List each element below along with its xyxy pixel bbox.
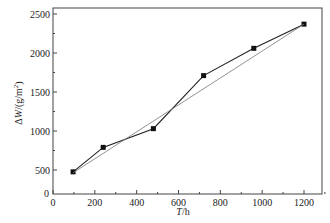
y-tick-label: 2500 [30, 9, 50, 20]
x-tick-label: 200 [87, 197, 102, 208]
data-series [71, 22, 307, 175]
square-marker [101, 145, 106, 150]
square-marker [151, 126, 156, 131]
square-marker [251, 46, 256, 51]
x-tick-label: 1000 [252, 197, 272, 208]
x-tick-label: 800 [213, 197, 228, 208]
y-tick-label: 500 [35, 165, 50, 176]
x-axis-title: T/h [176, 206, 189, 217]
y-tick-label: 1500 [30, 87, 50, 98]
x-tick-label: 1200 [294, 197, 314, 208]
y-axis-title: ΔW/(g/m2) [12, 81, 25, 124]
y-tick-label: 0 [44, 188, 49, 199]
plot-frame [53, 8, 322, 194]
fit-line [73, 24, 304, 173]
y-tick-label: 2000 [30, 48, 50, 59]
square-marker [201, 73, 206, 78]
x-tick-label: 0 [51, 197, 56, 208]
y-tick-label: 1000 [30, 126, 50, 137]
x-tick-label: 400 [129, 197, 144, 208]
chart: 020040060080010001200 050010001500200025… [0, 0, 330, 223]
